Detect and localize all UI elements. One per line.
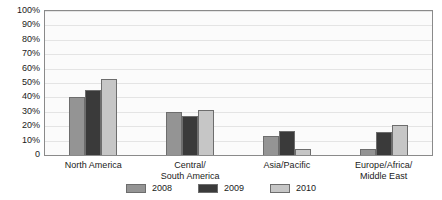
y-axis-tick-label: 60% bbox=[0, 63, 40, 72]
legend-label: 2010 bbox=[296, 184, 316, 193]
category-label: Europe/Africa/ Middle East bbox=[335, 160, 432, 182]
legend-item[interactable]: 2008 bbox=[126, 184, 172, 193]
bar bbox=[392, 125, 408, 155]
y-axis-tick-label: 90% bbox=[0, 20, 40, 29]
y-axis-tick-label: 50% bbox=[0, 78, 40, 87]
y-axis-tick-label: 0 bbox=[0, 150, 40, 159]
y-axis-tick-label: 20% bbox=[0, 121, 40, 130]
bar-chart: 010%20%30%40%50%60%70%80%90%100% North A… bbox=[0, 0, 442, 200]
plot-area bbox=[45, 11, 432, 155]
bar bbox=[85, 90, 101, 155]
y-axis-tick-label: 80% bbox=[0, 34, 40, 43]
legend-item[interactable]: 2009 bbox=[198, 184, 244, 193]
bar bbox=[198, 110, 214, 155]
y-axis-tick-label: 40% bbox=[0, 92, 40, 101]
bar bbox=[166, 112, 182, 155]
legend-swatch bbox=[270, 184, 290, 193]
legend-label: 2008 bbox=[152, 184, 172, 193]
bar bbox=[101, 79, 117, 155]
bar bbox=[295, 149, 311, 155]
y-axis-tick-label: 10% bbox=[0, 135, 40, 144]
legend-swatch bbox=[198, 184, 218, 193]
y-axis-tick-label: 100% bbox=[0, 6, 40, 15]
bar-group bbox=[45, 11, 142, 155]
y-axis: 010%20%30%40%50%60%70%80%90%100% bbox=[0, 10, 40, 156]
bar bbox=[263, 136, 279, 155]
legend-swatch bbox=[126, 184, 146, 193]
y-axis-tick-label: 70% bbox=[0, 49, 40, 58]
legend: 200820092010 bbox=[0, 184, 442, 193]
category-label: Asia/Pacific bbox=[239, 160, 336, 171]
bar-group bbox=[239, 11, 336, 155]
bar-group bbox=[142, 11, 239, 155]
bar bbox=[360, 149, 376, 155]
legend-item[interactable]: 2010 bbox=[270, 184, 316, 193]
bar-group bbox=[335, 11, 432, 155]
bar bbox=[69, 97, 85, 155]
y-axis-tick-label: 30% bbox=[0, 106, 40, 115]
legend-label: 2009 bbox=[224, 184, 244, 193]
bar bbox=[182, 116, 198, 155]
bar bbox=[279, 131, 295, 155]
category-label: North America bbox=[45, 160, 142, 171]
bar bbox=[376, 132, 392, 155]
category-label: Central/ South America bbox=[142, 160, 239, 182]
